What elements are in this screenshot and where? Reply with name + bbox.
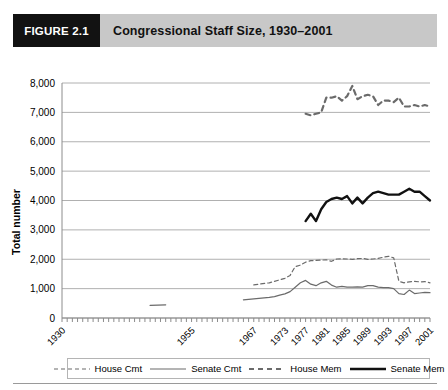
legend-item-senate-mem[interactable]: Senate Mem xyxy=(349,363,445,374)
x-tick-label: 1993 xyxy=(371,325,394,348)
chart-area: Total number 01,0002,0003,0004,0005,0006… xyxy=(0,56,448,356)
y-tick-label: 1,000 xyxy=(30,283,55,294)
legend-label: House Mem xyxy=(290,363,341,374)
legend-swatch-icon xyxy=(349,364,387,374)
legend-label: House Cmt xyxy=(95,363,143,374)
y-tick-label: 8,000 xyxy=(30,78,55,89)
y-tick-label: 7,000 xyxy=(30,107,55,118)
x-tick-label: 1973 xyxy=(268,325,291,348)
legend-label: Senate Mem xyxy=(391,363,445,374)
x-tick-label: 1989 xyxy=(350,325,373,348)
y-tick-label: 2,000 xyxy=(30,254,55,265)
x-tick-label: 1930 xyxy=(45,325,68,348)
legend-swatch-icon xyxy=(248,364,286,374)
x-tick-label: 1985 xyxy=(330,325,353,348)
series-line-house-mem xyxy=(306,86,430,115)
y-tick-label: 5,000 xyxy=(30,166,55,177)
x-tick-label: 1977 xyxy=(288,325,311,348)
line-chart-plot: 01,0002,0003,0004,0005,0006,0007,0008,00… xyxy=(0,56,448,356)
y-tick-label: 6,000 xyxy=(30,136,55,147)
chart-legend: House CmtSenate CmtHouse MemSenate Mem xyxy=(67,358,430,379)
x-tick-label: 1981 xyxy=(309,325,332,348)
series-line-senate-cmt xyxy=(150,305,166,306)
legend-item-house-cmt[interactable]: House Cmt xyxy=(53,363,143,374)
series-line-house-cmt xyxy=(254,256,430,285)
x-tick-label: 2001 xyxy=(413,325,436,348)
figure-container: FIGURE 2.1 Congressional Staff Size, 193… xyxy=(0,0,448,390)
x-tick-label: 1967 xyxy=(236,325,259,348)
legend-label: Senate Cmt xyxy=(191,363,241,374)
x-tick-label: 1955 xyxy=(174,325,197,348)
figure-header: FIGURE 2.1 Congressional Staff Size, 193… xyxy=(13,14,437,47)
series-line-senate-cmt xyxy=(243,280,430,299)
footer-divider xyxy=(13,383,437,384)
legend-item-house-mem[interactable]: House Mem xyxy=(248,363,341,374)
legend-item-senate-cmt[interactable]: Senate Cmt xyxy=(149,363,241,374)
x-tick-label: 1997 xyxy=(392,325,415,348)
y-tick-label: 3,000 xyxy=(30,224,55,235)
figure-title: Congressional Staff Size, 1930–2001 xyxy=(100,14,437,47)
series-line-senate-mem xyxy=(306,189,430,221)
figure-number-tag: FIGURE 2.1 xyxy=(13,14,100,47)
y-tick-label: 4,000 xyxy=(30,195,55,206)
legend-swatch-icon xyxy=(149,364,187,374)
legend-swatch-icon xyxy=(53,364,91,374)
y-tick-label: 0 xyxy=(49,313,55,324)
